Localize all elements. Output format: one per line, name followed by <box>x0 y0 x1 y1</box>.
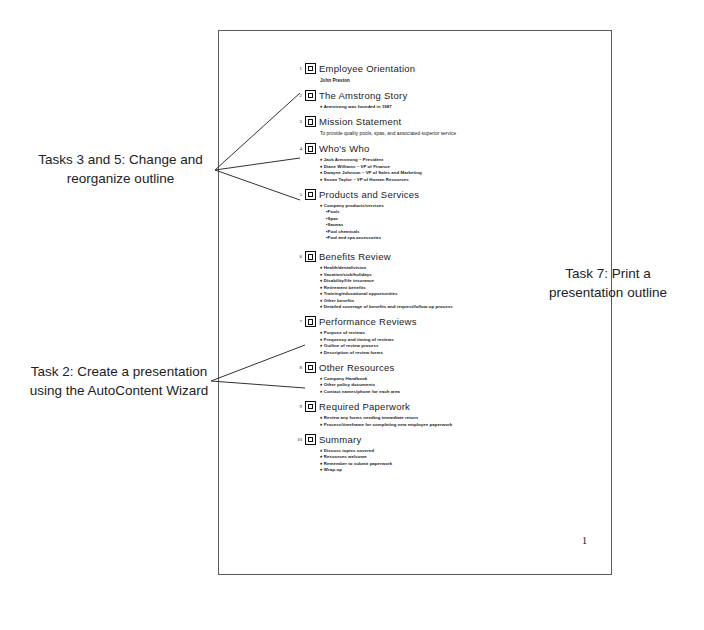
outline-bullet-text[interactable]: Remember to submit paperwork <box>324 461 393 466</box>
slide-title[interactable]: Summary <box>319 433 361 446</box>
outline-slide[interactable]: 10Summary♦Discuss topics covered♦Resourc… <box>293 433 593 474</box>
outline-slide[interactable]: 9Required Paperwork♦Review any forms nee… <box>293 400 593 428</box>
slide-title[interactable]: Mission Statement <box>319 115 401 128</box>
outline-bullet-text[interactable]: Pools <box>328 209 340 214</box>
slide-number: 6 <box>293 250 302 263</box>
outline-bullet[interactable]: ♦Contact names/phone for each area <box>320 389 593 395</box>
outline-bullet[interactable]: ♦Description of review forms <box>320 350 593 356</box>
slide-icon[interactable] <box>305 362 316 373</box>
outline-slide[interactable]: 4Who's Who♦Jack Armstrong – President♦Di… <box>293 142 593 183</box>
slide-icon[interactable] <box>305 143 316 154</box>
annotation-task-7: Task 7: Print a presentation outline <box>522 264 694 302</box>
slide-icon[interactable] <box>305 316 316 327</box>
outline-bullet-text[interactable]: Susan Taylor – VP of Human Resources <box>324 177 409 182</box>
slide-number: 7 <box>293 315 302 328</box>
outline-slide[interactable]: 8Other Resources♦Company Handbook♦Other … <box>293 361 593 395</box>
slide-icon[interactable] <box>305 401 316 412</box>
printed-page-sheet: 1Employee OrientationJohn Preston2The Am… <box>218 30 612 575</box>
slide-number: 9 <box>293 400 302 413</box>
outline-bullet-text[interactable]: Vacation/sick/holidays <box>324 272 372 277</box>
slide-title[interactable]: Required Paperwork <box>319 400 410 413</box>
slide-title-row[interactable]: 4Who's Who <box>293 142 593 157</box>
outline-bullet[interactable]: ♦Wrap-up <box>320 467 593 473</box>
slide-title-row[interactable]: 10Summary <box>293 433 593 448</box>
slide-subtitle[interactable]: John Preston <box>320 77 593 84</box>
slide-number: 1 <box>293 62 302 75</box>
slide-title[interactable]: Benefits Review <box>319 250 391 263</box>
annotation-line-1: Task 2: Create a presentation <box>18 362 220 381</box>
slide-title[interactable]: Products and Services <box>319 188 419 201</box>
slide-title[interactable]: Employee Orientation <box>319 62 415 75</box>
diamond-bullet-icon: ♦ <box>320 422 322 428</box>
outline-bullet-text[interactable]: Pool chemicals <box>328 229 360 234</box>
diamond-bullet-icon: ♦ <box>320 104 322 110</box>
annotation-line-2: reorganize outline <box>28 169 213 188</box>
outline-bullet-text[interactable]: Training/educational opportunities <box>324 291 398 296</box>
outline-bullet-text[interactable]: Jack Armstrong – President <box>324 157 383 162</box>
slide-number: 4 <box>293 142 302 155</box>
slide-title[interactable]: The Amstrong Story <box>319 89 407 102</box>
slide-title-row[interactable]: 3Mission Statement <box>293 115 593 130</box>
slide-number: 8 <box>293 361 302 374</box>
slide-title[interactable]: Other Resources <box>319 361 395 374</box>
outline-bullet-text[interactable]: Discuss topics covered <box>324 448 374 453</box>
outline-bullet-text[interactable]: Process/timeframe for completing new emp… <box>324 422 452 427</box>
outline-bullet-text[interactable]: Spas <box>328 216 339 221</box>
outline-bullet-text[interactable]: Outline of review process <box>324 343 379 348</box>
outline-bullet-text[interactable]: Wrap-up <box>324 467 342 472</box>
outline-bullet[interactable]: ♦Detailed coverage of benefits and reque… <box>320 304 593 310</box>
slide-icon[interactable] <box>305 90 316 101</box>
outline-bullet[interactable]: ♦Process/timeframe for completing new em… <box>320 422 593 428</box>
slide-title[interactable]: Who's Who <box>319 142 370 155</box>
outline-bullet-text[interactable]: Dwayne Johnson – VP of Sales and Marketi… <box>324 170 422 175</box>
outline-bullet-text[interactable]: Frequency and timing of reviews <box>324 337 394 342</box>
outline-bullet[interactable]: ♦Susan Taylor – VP of Human Resources <box>320 177 593 183</box>
outline-bullet-text[interactable]: Other benefits <box>324 298 354 303</box>
diamond-bullet-icon: ♦ <box>320 467 322 473</box>
annotation-tasks-3-and-5: Tasks 3 and 5: Change and reorganize out… <box>28 150 213 188</box>
slide-number: 10 <box>293 433 302 446</box>
outline-bullet-text[interactable]: Other policy documents <box>324 382 375 387</box>
outline-bullet-text[interactable]: Saunas <box>328 222 344 227</box>
outline-bullet-text[interactable]: Detailed coverage of benefits and reques… <box>324 304 453 309</box>
outline-bullet[interactable]: ♦Armstrong was founded in 1987 <box>320 104 593 110</box>
diamond-bullet-icon: ♦ <box>320 304 322 310</box>
outline-bullet-text[interactable]: Pool and spa accessories <box>328 235 382 240</box>
slide-title-row[interactable]: 2The Amstrong Story <box>293 89 593 104</box>
slide-icon[interactable] <box>305 116 316 127</box>
outline-bullet-text[interactable]: Purpose of reviews <box>324 330 365 335</box>
slide-number: 2 <box>293 89 302 102</box>
outline-slide[interactable]: 7Performance Reviews♦Purpose of reviews♦… <box>293 315 593 356</box>
outline-bullet-text[interactable]: Diane Williams – VP of Finance <box>324 164 390 169</box>
outline-bullet-text[interactable]: Description of review forms <box>324 350 383 355</box>
outline-bullet-text[interactable]: Review any forms needing immediate retur… <box>324 415 418 420</box>
outline-bullet-text[interactable]: Retirement benefits <box>324 285 366 290</box>
outline-bullet-text[interactable]: Contact names/phone for each area <box>324 389 400 394</box>
outline-bullet[interactable]: ▪Pool and spa accessories <box>326 235 593 241</box>
slide-title-row[interactable]: 8Other Resources <box>293 361 593 376</box>
outline-bullet-text[interactable]: Disability/life insurance <box>324 278 374 283</box>
slide-title-row[interactable]: 5Products and Services <box>293 188 593 203</box>
diamond-bullet-icon: ♦ <box>320 350 322 356</box>
slide-icon[interactable] <box>305 434 316 445</box>
slide-icon[interactable] <box>305 251 316 262</box>
slide-title-row[interactable]: 9Required Paperwork <box>293 400 593 415</box>
outline-slide[interactable]: 5Products and Services♦Company products/… <box>293 188 593 241</box>
outline-slide[interactable]: 3Mission StatementTo provide quality poo… <box>293 115 593 137</box>
outline-bullet-text[interactable]: Company products/services <box>324 203 384 208</box>
slide-title[interactable]: Performance Reviews <box>319 315 417 328</box>
outline-slide[interactable]: 2The Amstrong Story♦Armstrong was founde… <box>293 89 593 110</box>
outline-slide[interactable]: 1Employee OrientationJohn Preston <box>293 62 593 84</box>
outline-bullet-text[interactable]: Resources welcome <box>324 454 367 459</box>
slide-title-row[interactable]: 1Employee Orientation <box>293 62 593 77</box>
outline-bullet-text[interactable]: Company Handbook <box>324 376 368 381</box>
annotation-line-1: Tasks 3 and 5: Change and <box>28 150 213 169</box>
slide-icon[interactable] <box>305 189 316 200</box>
page-number: 1 <box>582 535 587 546</box>
outline-bullet-text[interactable]: Armstrong was founded in 1987 <box>324 104 392 109</box>
slide-title-row[interactable]: 7Performance Reviews <box>293 315 593 330</box>
slide-subtitle[interactable]: To provide quality pools, spas, and asso… <box>320 130 593 137</box>
slide-icon[interactable] <box>305 63 316 74</box>
slide-number: 3 <box>293 115 302 128</box>
outline-bullet-text[interactable]: Health/dental/vision <box>324 265 366 270</box>
